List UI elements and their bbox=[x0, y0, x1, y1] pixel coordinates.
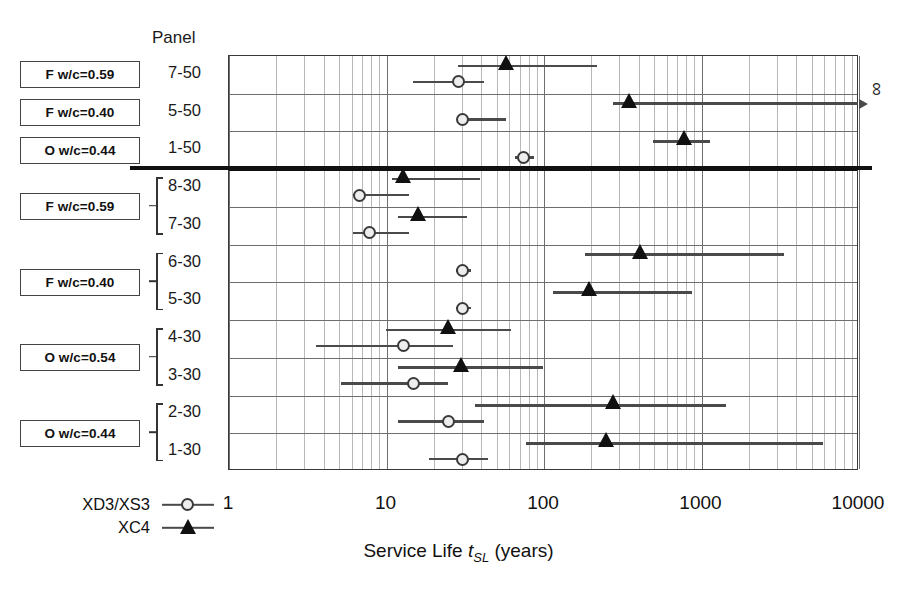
legend-open-circle-icon bbox=[181, 498, 194, 511]
gridline-minor bbox=[812, 56, 813, 469]
whisker-4-30-xd3xs3 bbox=[316, 345, 454, 347]
whisker-7-30-xd3xs3 bbox=[353, 232, 409, 234]
mix-label-box-5: O w/c=0.54 bbox=[20, 344, 140, 371]
x-tick-100: 100 bbox=[527, 492, 559, 514]
gridline-minor bbox=[362, 56, 363, 469]
marker-xc4-5-50 bbox=[621, 93, 637, 108]
gridline-minor bbox=[654, 56, 655, 469]
service-life-chart: 7-505-501-508-307-306-305-304-303-302-30… bbox=[0, 0, 917, 591]
whisker-6-30-xc4 bbox=[585, 253, 784, 256]
gridline-minor bbox=[852, 56, 853, 469]
x-tick-1: 1 bbox=[223, 492, 234, 514]
whisker-7-30-xc4 bbox=[398, 216, 467, 219]
row-separator bbox=[229, 282, 857, 283]
row-separator bbox=[229, 320, 857, 321]
gridline-minor bbox=[520, 56, 521, 469]
panel-group-brace-6 bbox=[152, 403, 164, 461]
gridline-minor bbox=[777, 56, 778, 469]
gridline-minor bbox=[667, 56, 668, 469]
panel-id-5-30: 5-30 bbox=[168, 289, 201, 308]
legend-filled-triangle-icon bbox=[180, 519, 196, 534]
whisker-2-30-xd3xs3 bbox=[398, 420, 484, 422]
panel-id-3-30: 3-30 bbox=[168, 365, 201, 384]
gridline-minor bbox=[529, 56, 530, 469]
infinity-symbol: ∞ bbox=[866, 82, 888, 96]
mix-label-box-0: F w/c=0.59 bbox=[20, 61, 140, 88]
row-separator bbox=[229, 131, 857, 132]
mix-label-box-4: F w/c=0.40 bbox=[20, 269, 140, 296]
panel-id-1-30: 1-30 bbox=[168, 440, 201, 459]
row-separator bbox=[229, 396, 857, 397]
legend-label-xd3-xs3: XD3/XS3 bbox=[30, 495, 150, 514]
panel-group-brace-4 bbox=[152, 253, 164, 311]
gridline-major bbox=[229, 56, 230, 469]
legend-label-xc4: XC4 bbox=[30, 518, 150, 537]
gridline-minor bbox=[434, 56, 435, 469]
x-tick-10000: 10000 bbox=[832, 492, 885, 514]
marker-xd3xs3-2-30 bbox=[442, 415, 455, 428]
mix-label-box-3: F w/c=0.59 bbox=[20, 193, 140, 220]
gridline-minor bbox=[686, 56, 687, 469]
panel-id-6-30: 6-30 bbox=[168, 252, 201, 271]
whisker-arrow-head-5-50 bbox=[859, 99, 868, 109]
gridline-minor bbox=[339, 56, 340, 469]
panel-id-1-50: 1-50 bbox=[168, 138, 201, 157]
gridline-minor bbox=[694, 56, 695, 469]
marker-xc4-7-50 bbox=[498, 55, 514, 70]
gridline-minor bbox=[352, 56, 353, 469]
marker-xc4-7-30 bbox=[410, 206, 426, 221]
row-separator bbox=[229, 245, 857, 246]
gridline-minor bbox=[304, 56, 305, 469]
whisker-1-30-xc4 bbox=[526, 442, 823, 445]
gridline-minor bbox=[749, 56, 750, 469]
whisker-3-30-xc4 bbox=[398, 366, 543, 369]
plot-area bbox=[228, 55, 858, 470]
panel-id-4-30: 4-30 bbox=[168, 327, 201, 346]
marker-xc4-4-30 bbox=[440, 319, 456, 334]
marker-xc4-6-30 bbox=[632, 244, 648, 259]
row-separator bbox=[229, 94, 857, 95]
whisker-7-50-xc4 bbox=[458, 65, 597, 68]
x-tick-10: 10 bbox=[375, 492, 396, 514]
gridline-minor bbox=[379, 56, 380, 469]
row-separator bbox=[229, 358, 857, 359]
gridline-minor bbox=[844, 56, 845, 469]
marker-xc4-8-30 bbox=[395, 168, 411, 183]
marker-xd3xs3-8-30 bbox=[353, 189, 366, 202]
whisker-7-50-xd3xs3 bbox=[413, 81, 483, 83]
x-axis-title: Service Life tSL (years) bbox=[0, 540, 917, 565]
legend-swatch-filled-triangle bbox=[162, 518, 214, 538]
gridline-minor bbox=[796, 56, 797, 469]
gridline-minor bbox=[639, 56, 640, 469]
mix-label-box-2: O w/c=0.44 bbox=[20, 137, 140, 164]
gridline-major bbox=[859, 56, 860, 469]
marker-xd3xs3-1-30 bbox=[456, 453, 469, 466]
panel-id-2-30: 2-30 bbox=[168, 402, 201, 421]
panel-id-5-50: 5-50 bbox=[168, 101, 201, 120]
marker-xc4-1-50 bbox=[676, 130, 692, 145]
whisker-2-30-xc4 bbox=[475, 404, 726, 407]
gridline-minor bbox=[371, 56, 372, 469]
gridline-minor bbox=[509, 56, 510, 469]
row-separator bbox=[229, 433, 857, 434]
gridline-minor bbox=[537, 56, 538, 469]
mix-label-box-1: F w/c=0.40 bbox=[20, 99, 140, 126]
marker-xd3xs3-1-50 bbox=[517, 151, 530, 164]
gridline-minor bbox=[835, 56, 836, 469]
gridline-major bbox=[387, 56, 388, 469]
marker-xc4-2-30 bbox=[605, 394, 621, 409]
mix-label-box-6: O w/c=0.44 bbox=[20, 420, 140, 447]
marker-xc4-5-30 bbox=[581, 281, 597, 296]
row-separator bbox=[229, 207, 857, 208]
legend-swatch-open-circle bbox=[162, 495, 214, 515]
panel-column-header: Panel bbox=[152, 28, 195, 48]
gridline-major bbox=[702, 56, 703, 469]
gridline-minor bbox=[677, 56, 678, 469]
marker-xc4-1-30 bbox=[598, 432, 614, 447]
axis-title-text: Service Life tSL (years) bbox=[363, 540, 553, 561]
whisker-3-30-xd3xs3 bbox=[341, 382, 448, 384]
panel-id-8-30: 8-30 bbox=[168, 176, 201, 195]
marker-xc4-3-30 bbox=[453, 357, 469, 372]
whisker-5-50-xd3xs3 bbox=[463, 118, 506, 120]
panel-group-brace-3 bbox=[152, 177, 164, 235]
